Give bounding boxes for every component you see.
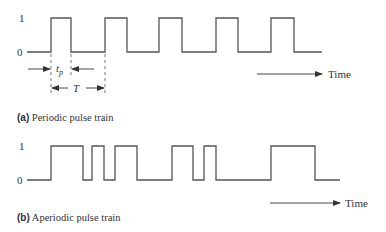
caption-b-text: Aperiodic pulse train [32,212,121,223]
periodic-pulse-train: 1 0 tp T Time [17,12,351,96]
aperiodic-pulse-train: 1 0 Time [17,140,368,209]
level-high-label-a: 1 [19,12,25,24]
level-low-label-a: 0 [17,46,23,58]
caption-b-tag: (b) [17,212,30,223]
period-label: T [73,82,80,94]
level-low-label-b: 0 [17,174,23,186]
caption-a: (a) Periodic pulse train [17,112,114,123]
caption-a-tag: (a) [17,112,29,123]
aperiodic-waveform [27,146,340,180]
time-label-a: Time [328,68,351,80]
pulse-width-label: tp [56,62,63,77]
time-label-b: Time [345,197,368,209]
level-high-label-b: 1 [19,140,25,152]
caption-b: (b) Aperiodic pulse train [17,212,120,223]
caption-a-text: Periodic pulse train [32,112,114,123]
periodic-waveform [27,18,322,52]
